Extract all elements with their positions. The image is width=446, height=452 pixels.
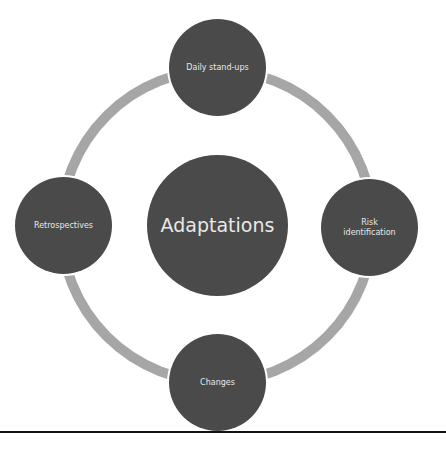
node-daily-standups: Daily stand-ups (169, 19, 266, 116)
node-label: Daily stand-ups (172, 63, 262, 73)
node-label: Retrospectives (20, 221, 107, 231)
node-changes: Changes (169, 334, 266, 431)
node-label: Changes (186, 378, 249, 388)
center-node-adaptations: Adaptations (147, 155, 288, 296)
bottom-divider (0, 431, 446, 433)
cycle-diagram: Daily stand-ups Risk identification Chan… (0, 0, 446, 452)
node-risk-identification: Risk identification (321, 179, 418, 276)
center-label: Adaptations (161, 214, 275, 238)
node-retrospectives: Retrospectives (15, 177, 112, 274)
node-label: Risk identification (321, 218, 418, 238)
